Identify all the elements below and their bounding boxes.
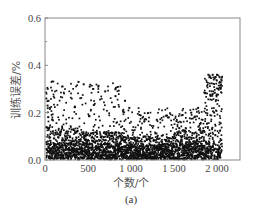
- x-tick-label: 500: [80, 163, 96, 174]
- scatter-chart: 0.00.20.40.6 05001 0001 5002 000 训练误差/% …: [0, 0, 253, 216]
- data-points: [45, 74, 223, 161]
- y-axis-title: 训练误差/%: [9, 61, 23, 119]
- x-tick-label: 1 000: [119, 163, 143, 174]
- x-tick-label: 0: [42, 163, 47, 174]
- y-tick-label: 0.4: [28, 60, 42, 71]
- x-axis-title: 个数/个: [113, 177, 150, 190]
- y-tick-label: 0.6: [28, 13, 41, 24]
- x-axis: 05001 0001 5002 000: [42, 163, 228, 174]
- y-tick-label: 0.0: [28, 155, 41, 166]
- x-tick-label: 1 500: [162, 163, 186, 174]
- x-tick-label: 2 000: [205, 163, 229, 174]
- figure-caption: (a): [125, 193, 138, 206]
- y-tick-label: 0.2: [28, 108, 41, 119]
